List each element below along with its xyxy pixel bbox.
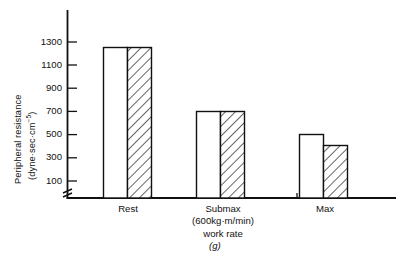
figure-panel-g: Peripheral resistance (dyne·sec·cm−5) 13… [0, 0, 401, 259]
x-category-submax: Submax (600kg·m/min) work rate [168, 203, 278, 240]
y-tick-label-500: 500 [28, 128, 62, 139]
x-category-submax-workrate-text: work rate [168, 228, 278, 240]
x-category-submax-label: Submax [205, 203, 240, 214]
y-tick-label-700: 700 [28, 105, 62, 116]
y-tick-label-1300: 1300 [28, 36, 62, 47]
y-tick-marks [68, 42, 77, 181]
y-tick-label-300: 300 [28, 151, 62, 162]
x-category-rest-label: Rest [118, 203, 138, 214]
panel-letter: (g) [209, 240, 221, 251]
bar-max-hatched [324, 146, 348, 199]
bar-submax-hatched [221, 112, 245, 199]
bar-submax-open [197, 112, 221, 199]
y-tick-label-1100: 1100 [28, 59, 62, 70]
y-axis-title-line2: (dyne·sec·cm−5) [25, 112, 37, 180]
x-category-submax-workrate: (600kg·m/min) [168, 215, 278, 227]
x-category-max: Max [290, 203, 360, 215]
bar-max-open [300, 135, 324, 199]
y-tick-label-900: 900 [28, 82, 62, 93]
y-tick-label-100: 100 [28, 175, 62, 186]
y-axis-title-line1: Peripheral resistance [13, 95, 23, 184]
bar-rest-hatched [128, 48, 152, 199]
bar-rest-open [104, 48, 128, 199]
x-category-rest: Rest [87, 203, 169, 215]
x-category-max-label: Max [316, 203, 334, 214]
